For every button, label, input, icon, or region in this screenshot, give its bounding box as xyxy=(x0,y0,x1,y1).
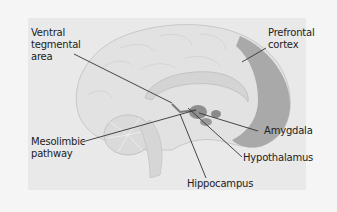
label-hippocampus: Hippocampus xyxy=(187,178,253,190)
label-amygdala: Amygdala xyxy=(264,125,313,137)
label-ventral-tegmental-area: Ventral tegmental area xyxy=(31,27,81,63)
label-hypothalamus: Hypothalamus xyxy=(243,152,313,164)
label-prefrontal-cortex: Prefrontal cortex xyxy=(268,27,315,51)
label-mesolimbic-pathway: Mesolimbic pathway xyxy=(31,136,85,160)
